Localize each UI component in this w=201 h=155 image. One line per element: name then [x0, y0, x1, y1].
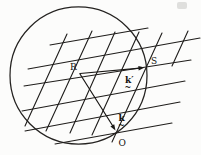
- lattice-lines-steep: [25, 31, 188, 142]
- figure-canvas: R S O k′ ~ k ~: [0, 0, 201, 155]
- k-arrowhead-icon: [110, 124, 115, 130]
- scan-smudge-artifact: [177, 2, 187, 9]
- label-origin-O: O: [119, 138, 126, 148]
- k-prime-arrowhead-icon: [138, 66, 144, 70]
- lattice-line-h1: [50, 28, 148, 45]
- label-k-prime-tilde: ~: [125, 82, 132, 92]
- label-lattice-point-S: S: [151, 56, 157, 66]
- label-k-tilde: ~: [118, 120, 125, 130]
- lattice-line-h2: [28, 38, 200, 69]
- label-sphere-center-R: R: [70, 62, 77, 72]
- lattice-line-h4: [22, 81, 185, 111]
- ewald-construction-diagram: R S O k′ ~ k ~: [0, 0, 201, 155]
